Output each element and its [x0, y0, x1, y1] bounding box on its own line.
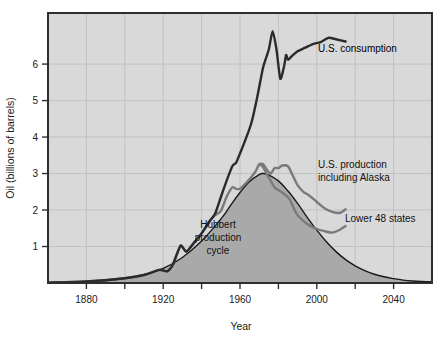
annotation-lower-48-states: Lower 48 states: [345, 213, 416, 224]
annotation-hubbert-line1: Hubbert: [200, 219, 236, 230]
x-axis-title: Year: [230, 320, 252, 332]
x-tick-label: 1920: [152, 294, 175, 305]
annotation-hubbert-line3: cycle: [207, 245, 230, 256]
x-tick-label: 1880: [75, 294, 98, 305]
y-tick-label: 1: [32, 241, 38, 252]
y-tick-label: 4: [32, 132, 38, 143]
annotation-us-consumption: U.S. consumption: [318, 43, 397, 54]
chart-canvas: 18801920196020002040 123456 Year Oil (bi…: [0, 0, 445, 343]
annotation-us-production-line2: including Alaska: [318, 172, 390, 183]
oil-production-chart-figure: 18801920196020002040 123456 Year Oil (bi…: [0, 0, 445, 343]
annotation-hubbert-line2: production: [195, 232, 242, 243]
y-axis-title: Oil (billions of barrels): [4, 97, 16, 199]
x-tick-label: 1960: [229, 294, 252, 305]
x-tick-label: 2000: [306, 294, 329, 305]
y-tick-label: 5: [32, 95, 38, 106]
x-tick-label: 2040: [382, 294, 405, 305]
y-tick-label: 3: [32, 168, 38, 179]
y-tick-label: 2: [32, 205, 38, 216]
y-tick-label: 6: [32, 59, 38, 70]
annotation-us-production-line1: U.S. production: [318, 159, 387, 170]
